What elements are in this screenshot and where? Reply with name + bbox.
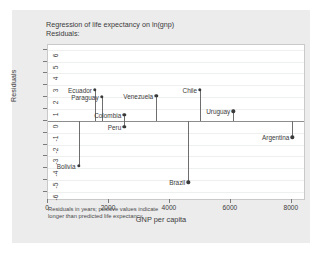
point-label-argentina: Argentina bbox=[262, 134, 289, 141]
y-tick bbox=[43, 144, 47, 145]
x-tick bbox=[169, 199, 170, 203]
y-tick bbox=[43, 120, 47, 121]
y-axis-label: Residuals bbox=[10, 69, 17, 102]
y-tick bbox=[43, 108, 47, 109]
stem-brazil bbox=[188, 121, 189, 183]
gridline bbox=[48, 50, 304, 51]
point-label-brazil: Brazil bbox=[169, 179, 185, 186]
gridline bbox=[48, 156, 304, 157]
gridline bbox=[48, 168, 304, 169]
gridline bbox=[48, 62, 304, 63]
gridline bbox=[48, 73, 304, 74]
stem-bolivia bbox=[79, 121, 80, 166]
point-label-colombia: Colombia bbox=[94, 111, 121, 118]
y-tick bbox=[43, 179, 47, 180]
stem-chile bbox=[200, 90, 201, 121]
data-point-colombia[interactable] bbox=[122, 113, 125, 116]
point-label-bolivia: Bolivia bbox=[57, 162, 76, 169]
data-point-uruguay[interactable] bbox=[232, 110, 235, 113]
x-tick bbox=[291, 199, 292, 203]
y-tick bbox=[43, 72, 47, 73]
x-tick bbox=[108, 199, 109, 203]
y-tick bbox=[43, 96, 47, 97]
y-tick bbox=[43, 84, 47, 85]
y-tick-label: -6 bbox=[52, 190, 59, 204]
data-point-peru[interactable] bbox=[122, 125, 125, 128]
y-tick bbox=[43, 155, 47, 156]
data-point-chile[interactable] bbox=[198, 88, 201, 91]
x-tick bbox=[47, 199, 48, 203]
data-point-ecuador[interactable] bbox=[93, 88, 96, 91]
y-tick bbox=[43, 167, 47, 168]
data-point-brazil[interactable] bbox=[186, 181, 189, 184]
gridline bbox=[48, 145, 304, 146]
zero-baseline bbox=[48, 121, 304, 122]
point-label-chile: Chile bbox=[183, 87, 198, 94]
point-label-venezuela: Venezuela bbox=[123, 92, 153, 99]
point-label-uruguay: Uruguay bbox=[206, 108, 230, 115]
plot-area: BoliviaEcuadorParaguayColombiaPeruVenezu… bbox=[47, 44, 305, 200]
y-tick bbox=[43, 49, 47, 50]
data-point-bolivia[interactable] bbox=[77, 164, 80, 167]
y-tick bbox=[43, 132, 47, 133]
figure-card: Regression of life expectancy on ln(gnp)… bbox=[12, 10, 310, 243]
point-label-peru: Peru bbox=[108, 123, 122, 130]
y-tick bbox=[43, 61, 47, 62]
data-point-paraguay[interactable] bbox=[100, 95, 103, 98]
chart-title: Regression of life expectancy on ln(gnp)… bbox=[46, 20, 296, 38]
stem-uruguay bbox=[233, 111, 234, 121]
y-tick bbox=[43, 191, 47, 192]
gridline bbox=[48, 109, 304, 110]
data-point-argentina[interactable] bbox=[291, 136, 294, 139]
point-label-ecuador: Ecuador bbox=[68, 87, 92, 94]
point-label-paraguay: Paraguay bbox=[71, 94, 98, 101]
footnote: Residuals in years; positive values indi… bbox=[48, 206, 288, 221]
x-tick bbox=[230, 199, 231, 203]
gridline bbox=[48, 192, 304, 193]
stem-venezuela bbox=[156, 96, 157, 121]
